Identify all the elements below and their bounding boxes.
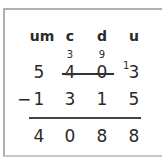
- subtrahend-c: 3: [60, 89, 80, 109]
- borrow-d: 9: [92, 49, 112, 60]
- subtrahend-d: 1: [92, 89, 112, 109]
- strikethrough: [62, 73, 114, 75]
- result-um: 4: [29, 126, 49, 146]
- minuend-c: 4: [60, 62, 80, 82]
- header-d: d: [92, 28, 112, 44]
- header-u: u: [124, 28, 144, 44]
- minuend-um: 5: [29, 62, 49, 82]
- minuend-d: 0: [92, 62, 112, 82]
- minuend-u: 3: [124, 62, 144, 82]
- result-u: 8: [124, 126, 144, 146]
- header-c: c: [60, 28, 80, 44]
- subtrahend-um: 1: [29, 89, 49, 109]
- subtrahend-u: 5: [124, 89, 144, 109]
- borrow-c: 3: [60, 49, 80, 60]
- result-rule: [29, 117, 141, 119]
- header-um: um: [28, 28, 56, 44]
- result-d: 8: [92, 126, 112, 146]
- result-c: 0: [60, 126, 80, 146]
